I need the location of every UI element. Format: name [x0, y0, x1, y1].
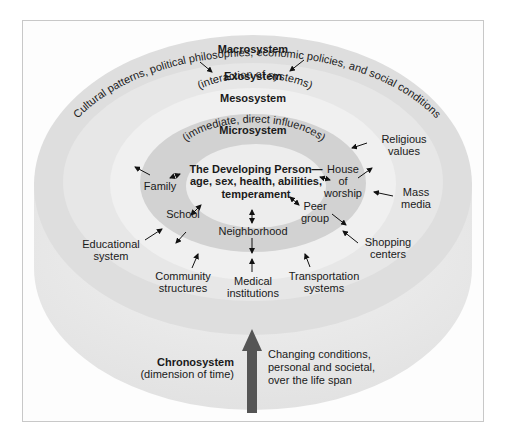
- chronosystem-note-line1: Changing conditions,: [268, 348, 388, 360]
- medical-institutions-line2: institutions: [215, 287, 291, 299]
- neighborhood-label: Neighborhood: [213, 225, 293, 237]
- mass-media-line2: media: [394, 198, 438, 210]
- transportation-systems-line2: systems: [282, 282, 366, 294]
- mass-media-line1: Mass: [394, 186, 438, 198]
- community-structures-line1: Community: [148, 270, 218, 282]
- peer-group-label-line2: group: [295, 212, 335, 224]
- shopping-centers-line2: centers: [358, 248, 418, 260]
- school-label: School: [163, 208, 203, 220]
- house-of-worship-line3: worship: [320, 187, 366, 199]
- family-label: Family: [140, 180, 180, 192]
- developing-person-line2: age, sex, health, abilities,: [180, 175, 332, 187]
- macrosystem-title: Macrosystem: [213, 43, 293, 55]
- religious-values-line2: values: [374, 145, 434, 157]
- chronosystem-description: (dimension of time): [134, 368, 234, 380]
- house-of-worship-line2: of: [320, 175, 366, 187]
- religious-values-line1: Religious: [374, 133, 434, 145]
- peer-group-label-line1: Peer: [295, 200, 335, 212]
- house-of-worship-line1: House: [320, 163, 366, 175]
- educational-system-line2: system: [76, 250, 146, 262]
- community-structures-line2: structures: [148, 282, 218, 294]
- mesosystem-title: Mesosystem: [210, 92, 296, 104]
- transportation-systems-line1: Transportation: [282, 270, 366, 282]
- chronosystem-note-line3: over the life span: [268, 374, 388, 386]
- exosystem-title: Exosystem: [213, 70, 293, 82]
- developing-person-line1: The Developing Person—: [186, 163, 326, 175]
- shopping-centers-line1: Shopping: [358, 236, 418, 248]
- developing-person-line3: temperament: [200, 188, 312, 200]
- ecological-model-graphic: Cultural patterns, political philosophie…: [0, 0, 505, 442]
- educational-system-line1: Educational: [76, 238, 146, 250]
- microsystem-title: Microsystem: [210, 124, 296, 136]
- chronosystem-note-line2: personal and societal,: [268, 361, 388, 373]
- medical-institutions-line1: Medical: [215, 275, 291, 287]
- chronosystem-title: Chronosystem: [140, 356, 234, 368]
